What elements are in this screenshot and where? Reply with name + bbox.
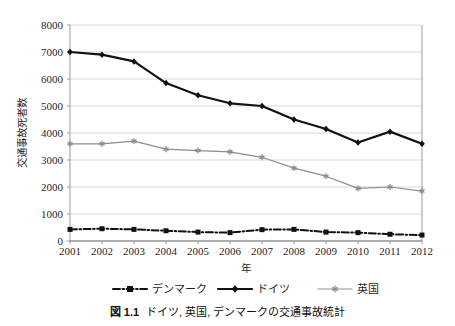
data-point-marker <box>356 230 361 235</box>
x-axis-title: 年 <box>241 262 251 274</box>
legend-label: 英国 <box>357 282 379 295</box>
data-point-marker <box>388 232 393 237</box>
data-point-marker <box>420 233 425 238</box>
caption-number: 図 1.1 <box>110 306 139 318</box>
figure-caption: 図 1.1ドイツ, 英国, デンマークの交通事故統計 <box>0 303 455 319</box>
y-tick-label: 2000 <box>41 181 64 193</box>
data-point-marker <box>292 227 297 232</box>
line-chart: 010002000300040005000600070008000 200120… <box>0 0 455 326</box>
x-tick-label: 2001 <box>59 245 81 257</box>
figure-container: 010002000300040005000600070008000 200120… <box>0 0 455 326</box>
x-tick-label: 2007 <box>251 245 274 257</box>
x-tick-label: 2003 <box>123 245 146 257</box>
x-tick-label: 2008 <box>283 245 306 257</box>
data-point-marker <box>132 227 137 232</box>
y-tick-label: 4000 <box>41 127 64 139</box>
legend-item-2[interactable]: ドイツ <box>218 283 290 295</box>
y-tick-label: 3000 <box>41 154 64 166</box>
chart-legend: デンマークドイツ英国 <box>113 282 379 295</box>
data-point-marker <box>164 228 169 233</box>
data-point-marker <box>196 230 201 235</box>
legend-item-3[interactable]: 英国 <box>318 282 379 295</box>
data-point-marker <box>100 226 105 231</box>
x-tick-label: 2012 <box>411 245 433 257</box>
data-point-marker <box>260 227 265 232</box>
y-tick-label: 6000 <box>41 73 64 85</box>
legend-label: デンマーク <box>152 282 207 295</box>
y-tick-label: 5000 <box>41 100 64 112</box>
x-tick-label: 2004 <box>155 245 178 257</box>
y-axis-tick-labels: 010002000300040005000600070008000 <box>41 19 70 247</box>
data-point-marker <box>228 230 233 235</box>
data-point-marker <box>68 227 73 232</box>
x-tick-label: 2010 <box>347 245 370 257</box>
legend-item-1[interactable]: デンマーク <box>113 282 207 295</box>
x-axis-tick-labels: 2001200220032004200520062007200820092010… <box>59 241 433 257</box>
y-tick-label: 7000 <box>41 46 64 58</box>
x-tick-label: 2006 <box>219 245 242 257</box>
data-point-marker <box>232 285 239 293</box>
x-tick-label: 2002 <box>91 245 113 257</box>
caption-text: ドイツ, 英国, デンマークの交通事故統計 <box>146 306 345 318</box>
y-tick-label: 1000 <box>41 208 64 220</box>
legend-label: ドイツ <box>257 283 290 295</box>
y-tick-label: 8000 <box>41 19 64 31</box>
x-tick-label: 2011 <box>379 245 401 257</box>
data-point-marker <box>324 230 329 235</box>
x-tick-label: 2005 <box>187 245 210 257</box>
data-point-marker <box>127 286 133 292</box>
y-axis-title: 交通事故死者数 <box>16 97 28 168</box>
x-tick-label: 2009 <box>315 245 338 257</box>
